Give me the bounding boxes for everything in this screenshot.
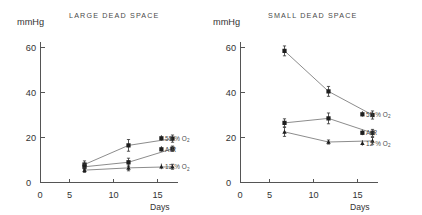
x-axis-ticks: [270, 179, 358, 183]
x-axis-label: Days: [350, 202, 370, 212]
legend-o2-55-subscript: 2: [388, 114, 391, 119]
x-tick-label-0: 0: [37, 190, 42, 200]
axes-lines: [241, 42, 379, 183]
legend-o2-12-percent: %: [174, 163, 180, 170]
legend-o2-12-subscript: 2: [388, 143, 391, 148]
x-tick-label-10: 10: [308, 190, 318, 200]
x-tick-label-15: 15: [352, 190, 362, 200]
axes-lines: [41, 42, 179, 183]
legend-air-text: AIR: [366, 129, 378, 136]
y-axis-unit-label: mmHg: [17, 17, 44, 27]
figure-container: LARGE DEAD SPACE mmHg 0 20 40 60 0: [0, 0, 422, 215]
x-tick-label-15: 15: [152, 190, 162, 200]
legend-o2-55-subscript: 2: [187, 138, 190, 143]
legend-o2-55-percent: %: [174, 135, 180, 142]
chart-panel-small-dead-space: SMALL DEAD SPACE mmHg 0 20 40 60 0 5 10 …: [211, 0, 422, 215]
data-point-marker: [326, 116, 330, 120]
legend-marker: [360, 131, 364, 135]
legend-label-o2-55: 55%O2: [360, 111, 391, 120]
series-o2-12: [282, 127, 374, 144]
chart-title: SMALL DEAD SPACE: [268, 11, 358, 20]
y-tick-label-60: 60: [26, 43, 36, 53]
y-axis-unit-label: mmHg: [213, 17, 240, 27]
y-tick-label-40: 40: [226, 88, 236, 98]
legend-o2-12-subscript: 2: [187, 167, 190, 172]
x-axis-label: Days: [150, 202, 170, 212]
y-tick-label-60: 60: [226, 43, 236, 53]
chart-panel-large-dead-space: LARGE DEAD SPACE mmHg 0 20 40 60 0: [0, 0, 211, 215]
data-point-marker: [126, 143, 130, 147]
legend-label-air: AIR: [159, 146, 176, 153]
plot-series-group: [282, 46, 374, 144]
legend-label-o2-12: 12%O2: [159, 163, 190, 172]
x-tick-label-5: 5: [267, 190, 272, 200]
chart-svg-large-dead-space: LARGE DEAD SPACE mmHg 0 20 40 60 0: [0, 0, 211, 215]
svg-text:12%O2: 12%O2: [165, 163, 190, 172]
legend-marker: [159, 136, 163, 140]
data-point-marker: [282, 121, 286, 125]
y-axis-ticks: [41, 48, 45, 183]
legend-marker: [360, 112, 364, 116]
y-tick-label-40: 40: [26, 88, 36, 98]
legend-o2-55-percent: %: [375, 111, 381, 118]
legend-marker: [159, 147, 163, 151]
legend-air-text: AIR: [165, 146, 177, 153]
data-point-marker: [282, 130, 286, 134]
svg-text:55%O2: 55%O2: [165, 135, 190, 144]
legend-o2-12-percent: %: [375, 140, 381, 147]
x-tick-label-5: 5: [67, 190, 72, 200]
x-tick-label-0: 0: [237, 190, 242, 200]
chart-title: LARGE DEAD SPACE: [69, 11, 160, 20]
legend-o2-55-value: 55: [165, 135, 173, 142]
svg-text:55%O2: 55%O2: [366, 111, 391, 120]
data-point-marker: [126, 160, 130, 164]
svg-text:12%O2: 12%O2: [366, 140, 391, 149]
legend-label-o2-55: 55%O2: [159, 135, 190, 144]
series-o2-55: [282, 46, 374, 119]
y-tick-label-0: 0: [226, 178, 231, 188]
chart-svg-small-dead-space: SMALL DEAD SPACE mmHg 0 20 40 60 0 5 10 …: [211, 0, 422, 215]
y-tick-label-20: 20: [226, 133, 236, 143]
y-axis-ticks: [241, 48, 245, 183]
data-point-marker: [282, 49, 286, 53]
x-tick-label-10: 10: [108, 190, 118, 200]
y-tick-label-20: 20: [26, 133, 36, 143]
legend-o2-55-value: 55: [366, 111, 374, 118]
legend-marker: [159, 165, 163, 169]
y-tick-label-0: 0: [26, 178, 31, 188]
x-axis-ticks: [70, 179, 158, 183]
series-line: [285, 51, 373, 115]
legend-o2-12-value: 12: [165, 163, 173, 170]
data-point-marker: [326, 89, 330, 93]
legend-marker: [360, 141, 364, 145]
legend-o2-12-value: 12: [366, 140, 374, 147]
